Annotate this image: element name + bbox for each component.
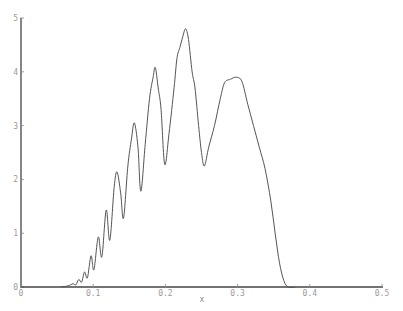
y-tick-label: 4 xyxy=(13,68,18,77)
x-axis-label: x xyxy=(200,295,205,304)
y-tick-label: 5 xyxy=(13,14,18,23)
x-tick-label: 0 xyxy=(19,289,24,298)
x-tick-label: 0.2 xyxy=(158,289,173,298)
data-line xyxy=(61,29,296,288)
y-tick-label: 1 xyxy=(13,229,18,238)
line-chart: 012345 00.10.20.30.40.5 x xyxy=(0,0,403,311)
y-axis: 012345 xyxy=(13,14,24,292)
x-tick-label: 0.1 xyxy=(86,289,101,298)
y-tick-label: 2 xyxy=(13,175,18,184)
x-tick-label: 0.3 xyxy=(230,289,245,298)
y-tick-label: 0 xyxy=(13,283,18,292)
x-tick-label: 0.5 xyxy=(375,289,390,298)
x-tick-label: 0.4 xyxy=(303,289,318,298)
y-tick-label: 3 xyxy=(13,122,18,131)
